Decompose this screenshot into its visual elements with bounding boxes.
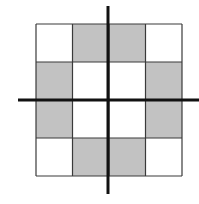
grid-cell-gray (36, 100, 73, 138)
grid-cell-gray (73, 138, 110, 176)
grid-cell-white (36, 138, 73, 176)
grid-cell-white (146, 24, 183, 62)
symmetry-grid-figure (0, 0, 199, 204)
grid-cell-gray (146, 100, 183, 138)
grid-cell-white (73, 100, 110, 138)
grid-cell-white (146, 138, 183, 176)
grid-cell-gray (73, 24, 110, 62)
grid-cell-white (109, 62, 146, 100)
grid-cell-gray (36, 62, 73, 100)
grid-diagram (0, 0, 199, 204)
grid-cell-gray (109, 138, 146, 176)
grid-cell-white (109, 100, 146, 138)
grid-cell-gray (109, 24, 146, 62)
grid-cell-gray (146, 62, 183, 100)
grid-cell-white (73, 62, 110, 100)
grid-cell-white (36, 24, 73, 62)
